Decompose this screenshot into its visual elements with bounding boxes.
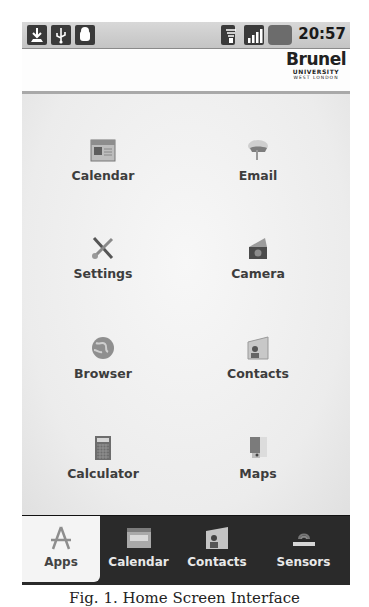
- app-email[interactable]: Email: [198, 136, 318, 183]
- app-label: Email: [198, 168, 318, 183]
- tab-label: Calendar: [100, 555, 177, 569]
- app-settings[interactable]: Settings: [43, 234, 163, 281]
- app-header: Brunel UNIVERSITY WEST LONDON: [22, 49, 350, 94]
- app-label: Settings: [43, 266, 163, 281]
- email-icon: [243, 136, 273, 164]
- signal-icon: [244, 25, 264, 45]
- maps-icon: [243, 434, 273, 462]
- contacts-icon: [203, 525, 231, 551]
- tab-calendar[interactable]: Calendar: [100, 516, 177, 582]
- app-label: Camera: [198, 266, 318, 281]
- calendar-icon: [88, 136, 118, 164]
- usb-icon: [51, 25, 71, 45]
- app-grid: Calendar Email Settings Camera Browser: [22, 94, 350, 515]
- tab-sensors[interactable]: Sensors: [257, 516, 350, 582]
- settings-icon: [88, 234, 118, 262]
- tab-label: Apps: [22, 555, 100, 569]
- app-label: Calendar: [43, 168, 163, 183]
- app-label: Calculator: [43, 466, 163, 481]
- apps-icon: [47, 525, 75, 551]
- brunel-logo: Brunel UNIVERSITY WEST LONDON: [286, 50, 346, 81]
- app-calendar[interactable]: Calendar: [43, 136, 163, 183]
- sensors-icon: [290, 525, 318, 551]
- battery-icon: [268, 25, 292, 45]
- app-label: Contacts: [198, 366, 318, 381]
- brand-line1: UNIVERSITY: [286, 68, 346, 75]
- wifi-icon: [221, 25, 235, 45]
- phone-screen: 20:57 Brunel UNIVERSITY WEST LONDON Cale…: [22, 22, 350, 584]
- tab-bar: Apps Calendar Contacts Sensors: [22, 515, 350, 585]
- app-contacts[interactable]: Contacts: [198, 334, 318, 381]
- android-icon: [75, 25, 95, 45]
- app-browser[interactable]: Browser: [43, 334, 163, 381]
- tab-label: Contacts: [177, 555, 257, 569]
- brand-line2: WEST LONDON: [286, 75, 346, 81]
- brand-name: Brunel: [286, 50, 346, 68]
- tab-label: Sensors: [257, 555, 350, 569]
- tab-apps[interactable]: Apps: [22, 516, 100, 582]
- clock: 20:57: [298, 25, 346, 43]
- camera-icon: [243, 234, 273, 262]
- app-label: Browser: [43, 366, 163, 381]
- figure-caption: Fig. 1. Home Screen Interface: [0, 590, 369, 607]
- app-label: Maps: [198, 466, 318, 481]
- calculator-icon: [88, 434, 118, 462]
- browser-icon: [88, 334, 118, 362]
- download-icon: [27, 25, 47, 45]
- app-camera[interactable]: Camera: [198, 234, 318, 281]
- app-maps[interactable]: Maps: [198, 434, 318, 481]
- tab-contacts[interactable]: Contacts: [177, 516, 257, 582]
- calendar-icon: [125, 525, 153, 551]
- status-bar: 20:57: [22, 22, 350, 49]
- contacts-icon: [243, 334, 273, 362]
- app-calculator[interactable]: Calculator: [43, 434, 163, 481]
